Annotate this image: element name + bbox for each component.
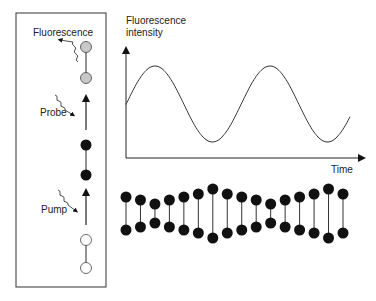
- atom-circle: [309, 189, 320, 200]
- atom-circle: [164, 222, 175, 233]
- ground-state-circle: [81, 235, 92, 246]
- dumbbell-molecule: [149, 199, 160, 229]
- atom-circle: [149, 199, 160, 210]
- dumbbell-molecule: [135, 195, 146, 233]
- atom-circle: [135, 195, 146, 206]
- atom-circle: [338, 228, 349, 239]
- dumbbell-molecule: [193, 189, 204, 239]
- pumped-state-circle: [81, 140, 92, 151]
- atom-circle: [222, 228, 233, 239]
- atom-circle: [251, 222, 262, 233]
- atom-circle: [178, 192, 189, 203]
- dumbbell-molecule: [222, 189, 233, 239]
- dumbbell-molecule: [280, 195, 291, 233]
- probe-label: Probe: [40, 107, 67, 118]
- y-axis-label-line2: intensity: [126, 27, 163, 38]
- atom-circle: [280, 195, 291, 206]
- atom-circle: [323, 233, 334, 244]
- atom-circle: [164, 195, 175, 206]
- fluorescence-chart: Fluorescence intensity Time: [126, 15, 362, 175]
- atom-circle: [207, 184, 218, 195]
- dumbbell-molecule: [178, 192, 189, 236]
- dumbbell-molecule: [323, 184, 334, 244]
- atom-circle: [178, 225, 189, 236]
- dumbbell-molecule: [265, 199, 276, 229]
- energy-level-panel: [16, 13, 106, 287]
- atom-circle: [222, 189, 233, 200]
- atom-circle: [121, 225, 132, 236]
- excited-state-circle: [81, 42, 92, 53]
- dumbbell-molecule: [207, 184, 218, 244]
- fluorescence-photon-icon: [60, 40, 78, 62]
- pumped-state-circle: [81, 170, 92, 181]
- atom-circle: [280, 222, 291, 233]
- atom-circle: [294, 192, 305, 203]
- dumbbell-molecule: [309, 189, 320, 239]
- atom-circle: [265, 218, 276, 229]
- x-axis-label: Time: [331, 164, 353, 175]
- fluorescence-curve: [126, 66, 350, 142]
- molecular-chain: [121, 184, 349, 244]
- atom-circle: [193, 228, 204, 239]
- fluorescence-label: Fluorescence: [33, 27, 93, 38]
- y-axis-label: Fluorescence: [126, 15, 186, 26]
- dumbbell-molecule: [236, 192, 247, 236]
- atom-circle: [236, 225, 247, 236]
- dumbbell-molecule: [338, 189, 349, 239]
- dumbbell-molecule: [121, 192, 132, 236]
- atom-circle: [294, 225, 305, 236]
- pump-label: Pump: [41, 204, 68, 215]
- atom-circle: [236, 192, 247, 203]
- atom-circle: [207, 233, 218, 244]
- atom-circle: [323, 184, 334, 195]
- atom-circle: [121, 192, 132, 203]
- atom-circle: [193, 189, 204, 200]
- dumbbell-molecule: [294, 192, 305, 236]
- atom-circle: [135, 222, 146, 233]
- atom-circle: [309, 228, 320, 239]
- atom-circle: [265, 199, 276, 210]
- atom-circle: [338, 189, 349, 200]
- atom-circle: [251, 195, 262, 206]
- excited-state-circle: [81, 73, 92, 84]
- ground-state-circle: [81, 263, 92, 274]
- atom-circle: [149, 218, 160, 229]
- dumbbell-molecule: [164, 195, 175, 233]
- energy-level-diagram: Fluorescence Probe Pump: [33, 27, 93, 274]
- figure: Fluorescence Probe Pump Fluorescence int…: [0, 0, 376, 301]
- dumbbell-molecule: [251, 195, 262, 233]
